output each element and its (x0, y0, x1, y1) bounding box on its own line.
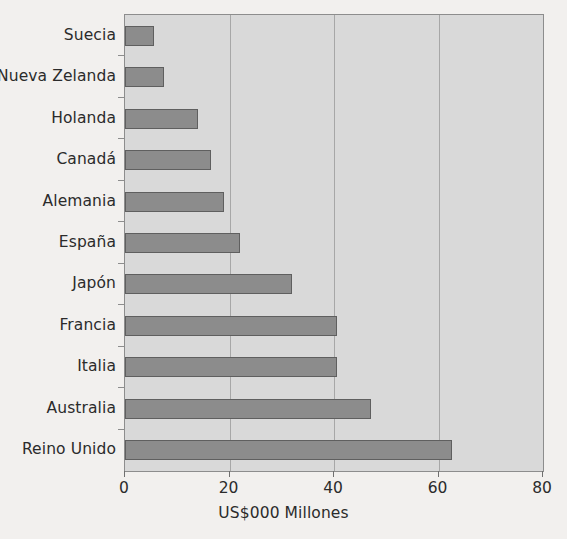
bar (125, 192, 224, 212)
bar (125, 26, 154, 46)
y-axis-label: Francia (59, 304, 116, 345)
x-axis-tick (124, 471, 125, 477)
x-axis-label: 0 (119, 479, 129, 497)
bar-row (125, 305, 543, 346)
bar-row (125, 264, 543, 305)
x-axis-tick (542, 471, 543, 477)
bar-row (125, 56, 543, 97)
bar (125, 274, 292, 294)
y-axis-tick (118, 263, 124, 264)
bar-row (125, 430, 543, 471)
y-axis-label: España (59, 221, 116, 262)
bar (125, 357, 337, 377)
y-axis-tick (118, 97, 124, 98)
y-axis-tick (118, 346, 124, 347)
bar-row (125, 15, 543, 56)
bar-row (125, 222, 543, 263)
bar (125, 233, 240, 253)
y-axis-tick (118, 138, 124, 139)
y-axis-label: Reino Unido (22, 429, 116, 470)
bar-row (125, 181, 543, 222)
bar (125, 150, 211, 170)
y-axis-label: Alemania (43, 180, 116, 221)
x-axis-label: 60 (428, 479, 448, 497)
y-axis-tick (118, 429, 124, 430)
bar-row (125, 98, 543, 139)
y-axis-label: Italia (77, 346, 116, 387)
y-axis-label: Japón (72, 263, 116, 304)
bar (125, 316, 337, 336)
y-axis-label: Canadá (56, 138, 116, 179)
bar (125, 67, 164, 87)
x-axis-label: 40 (323, 479, 343, 497)
bar-row (125, 139, 543, 180)
y-axis-tick (118, 304, 124, 305)
bar (125, 440, 452, 460)
y-axis-tick (118, 387, 124, 388)
bar-chart: SueciaNueva ZelandaHolandaCanadáAlemania… (0, 0, 567, 539)
bar (125, 109, 198, 129)
x-axis-tick (438, 471, 439, 477)
x-axis-tick (333, 471, 334, 477)
y-axis-labels: SueciaNueva ZelandaHolandaCanadáAlemania… (0, 14, 116, 470)
plot-area (124, 14, 544, 472)
x-axis-title: US$000 Millones (0, 504, 567, 522)
y-axis-label: Nueva Zelanda (0, 55, 116, 96)
x-axis-label: 80 (532, 479, 552, 497)
y-axis-tick (118, 55, 124, 56)
y-axis-tick (118, 180, 124, 181)
x-axis-label: 20 (219, 479, 239, 497)
bar-row (125, 347, 543, 388)
y-axis-label: Australia (47, 387, 116, 428)
y-axis-label: Suecia (64, 14, 116, 55)
y-axis-label: Holanda (51, 97, 116, 138)
bar (125, 399, 371, 419)
x-axis-tick (229, 471, 230, 477)
bar-row (125, 388, 543, 429)
y-axis-tick (118, 221, 124, 222)
